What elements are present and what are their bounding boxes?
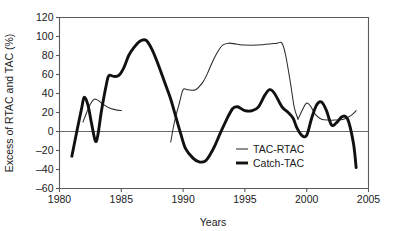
chart-legend: TAC-RTAC Catch-TAC bbox=[236, 143, 305, 169]
chart-figure: 120100806040200–20–40–60 198019851990199… bbox=[0, 0, 396, 231]
legend-label-catch-tac: Catch-TAC bbox=[253, 157, 305, 169]
y-tick-label: 0 bbox=[48, 125, 54, 137]
y-tick-label: 60 bbox=[42, 68, 54, 80]
x-axis-title: Years bbox=[200, 216, 226, 228]
y-tick-label: 80 bbox=[42, 49, 54, 61]
y-axis-tick-labels: 120100806040200–20–40–60 bbox=[36, 11, 54, 194]
x-tick-label: 1990 bbox=[171, 193, 195, 205]
y-tick-label: 120 bbox=[36, 11, 54, 23]
x-tick-label: 1985 bbox=[110, 193, 134, 205]
y-tick-label: –20 bbox=[36, 144, 54, 156]
y-tick-label: –40 bbox=[36, 163, 54, 175]
legend-label-tac-rtac: TAC-RTAC bbox=[253, 143, 305, 155]
x-tick-label: 2005 bbox=[357, 193, 381, 205]
y-tick-label: 100 bbox=[36, 30, 54, 42]
x-tick-label: 2000 bbox=[295, 193, 319, 205]
y-tick-label: 40 bbox=[42, 87, 54, 99]
x-axis-tick-labels: 198019851990199520002005 bbox=[48, 193, 381, 205]
chart-canvas: 120100806040200–20–40–60 198019851990199… bbox=[0, 0, 396, 231]
x-tick-label: 1995 bbox=[233, 193, 257, 205]
y-axis-title: Excess of RTAC and TAC (%) bbox=[3, 34, 15, 173]
y-tick-label: 20 bbox=[42, 106, 54, 118]
x-tick-label: 1980 bbox=[48, 193, 72, 205]
series-tac-rtac-seg1 bbox=[171, 42, 298, 142]
series-layer bbox=[72, 40, 356, 168]
